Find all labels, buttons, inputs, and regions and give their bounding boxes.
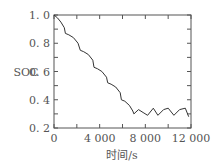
tick-label: 0. 4 bbox=[29, 94, 50, 107]
tick-label: 4 000 bbox=[84, 132, 116, 145]
tick-label: 12 000 bbox=[172, 132, 211, 145]
x-axis-label: 时间/s bbox=[106, 149, 138, 162]
tick-label: 1. 0 bbox=[29, 9, 50, 22]
soc-chart: 04 0008 00012 0000. 20. 40. 60. 81. 0 SO… bbox=[0, 0, 214, 166]
tick-label: 8 000 bbox=[130, 132, 162, 145]
soc-curve bbox=[54, 15, 189, 117]
tick-label: 0. 2 bbox=[29, 122, 50, 135]
tick-label: 0. 8 bbox=[29, 37, 50, 50]
tick-label: 0 bbox=[51, 132, 58, 145]
y-axis-label: SOC bbox=[14, 66, 39, 79]
